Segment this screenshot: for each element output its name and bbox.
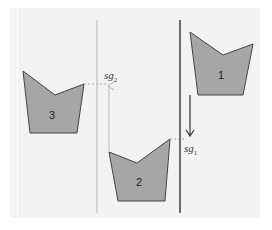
diagram-stage: 3 1 2 sg2 sg1: [0, 0, 272, 230]
shape-1-label: 1: [218, 69, 224, 81]
shape-3-label: 3: [49, 109, 55, 121]
shape-3: 3: [23, 71, 84, 133]
sg1-label: sg1: [184, 142, 198, 157]
shape-2: 2: [109, 139, 170, 201]
sg2-label: sg2: [104, 69, 118, 84]
shape-2-label: 2: [136, 176, 142, 188]
shape-1: 1: [190, 32, 253, 95]
diagram-canvas: 3 1 2 sg2 sg1: [0, 0, 272, 230]
